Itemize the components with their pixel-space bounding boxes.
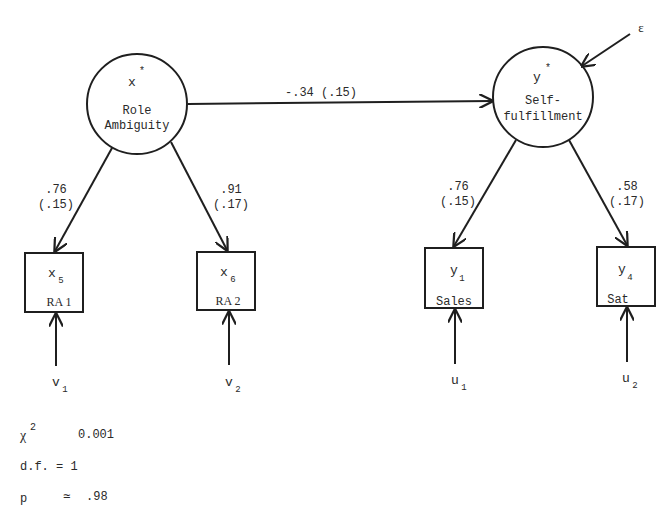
indicator-y1-subscript: 1	[459, 274, 464, 284]
p-value: .98	[86, 490, 108, 504]
p-approx-symbol: ≃	[63, 490, 70, 504]
loading-y1-se: (.15)	[440, 195, 476, 209]
indicator-x6-subscript: 6	[230, 275, 235, 285]
loading-y4-se: (.17)	[609, 195, 645, 209]
sem-path-diagram: x * Role Ambiguity y * Self- fulfillment…	[0, 0, 672, 526]
loading-x5-estimate: .76	[45, 183, 67, 197]
indicator-y1-symbol: y	[450, 263, 458, 278]
loading-x6-estimate: .91	[220, 183, 242, 197]
structural-path-arrow	[188, 101, 492, 104]
error-u2-subscript: 2	[632, 381, 637, 391]
indicator-y1: y 1 Sales	[425, 248, 483, 309]
p-label: p	[20, 492, 27, 506]
indicator-y4-name: Sat	[607, 293, 629, 307]
error-v2-subscript: 2	[235, 385, 240, 395]
latent-role-ambiguity: x * Role Ambiguity	[87, 54, 187, 154]
indicator-x6: x 6 RA 2	[197, 252, 255, 310]
indicator-x5: x 5 RA 1	[25, 253, 83, 312]
indicator-x6-symbol: x	[220, 265, 228, 280]
indicator-x6-name: RA 2	[215, 294, 240, 308]
latent-x-star: *	[139, 66, 145, 77]
latent-x-label-line1: Role	[123, 104, 152, 118]
chi-square-value: 0.001	[78, 428, 114, 442]
loading-y4-estimate: .58	[616, 180, 638, 194]
disturbance-arrow	[582, 34, 630, 66]
latent-y-label-line2: fulfillment	[503, 110, 582, 124]
indicator-x5-symbol: x	[48, 266, 56, 281]
indicator-x5-subscript: 5	[58, 276, 63, 286]
chi-square-symbol: χ	[19, 428, 27, 443]
latent-y-label-line1: Self-	[525, 94, 561, 108]
indicator-y1-name: Sales	[436, 295, 472, 309]
error-u1-symbol: u	[451, 373, 459, 388]
indicator-y4: y 4 Sat	[597, 247, 655, 307]
disturbance-epsilon-label: ε	[638, 20, 644, 35]
latent-self-fulfillment: y * Self- fulfillment	[493, 47, 593, 147]
fit-statistics: χ 2 0.001 d.f. = 1 p ≃ .98	[19, 422, 114, 506]
latent-y-star: *	[545, 63, 551, 74]
error-u1-subscript: 1	[461, 383, 466, 393]
indicator-y4-symbol: y	[618, 262, 626, 277]
error-v1-symbol: v	[52, 375, 60, 390]
error-v2-symbol: v	[225, 375, 233, 390]
loading-arrow-x6	[171, 142, 227, 250]
error-u2-symbol: u	[622, 371, 630, 386]
chi-square-superscript: 2	[30, 422, 36, 433]
loading-y1-estimate: .76	[447, 180, 469, 194]
degrees-of-freedom: d.f. = 1	[20, 460, 78, 474]
latent-x-label-line2: Ambiguity	[105, 119, 170, 133]
indicator-y4-subscript: 4	[627, 273, 632, 283]
loading-x5-se: (.15)	[38, 198, 74, 212]
indicator-x5-name: RA 1	[46, 295, 71, 309]
latent-y-symbol: y	[533, 70, 541, 85]
latent-x-symbol: x	[128, 75, 136, 90]
loading-x6-se: (.17)	[213, 198, 249, 212]
structural-path-label: -.34 (.15)	[285, 86, 357, 100]
error-v1-subscript: 1	[62, 385, 67, 395]
